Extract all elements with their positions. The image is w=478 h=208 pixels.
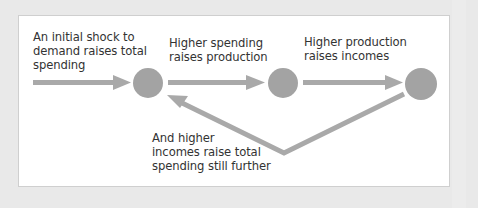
arrow-initial-shock	[33, 75, 131, 90]
node-production	[268, 68, 298, 98]
label-production-to-incomes: Higher production raises incomes	[304, 35, 407, 63]
label-initial-shock: An initial shock to demand raises total …	[33, 30, 147, 72]
arrow-spending-to-production	[168, 75, 265, 90]
arrow-production-to-incomes	[303, 75, 403, 90]
label-feedback: And higher incomes raise total spending …	[152, 131, 271, 173]
node-spending	[133, 68, 163, 98]
node-incomes	[405, 68, 437, 100]
label-spending-to-production: Higher spending raises production	[169, 36, 268, 64]
